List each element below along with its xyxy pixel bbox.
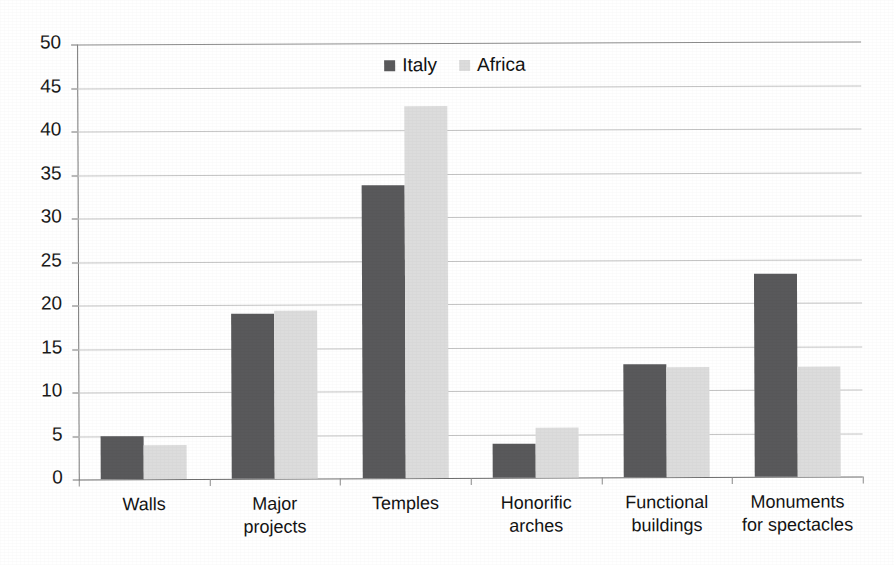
bar-group <box>361 43 449 478</box>
bar-italy[interactable] <box>754 274 798 477</box>
x-category-tick <box>732 477 733 484</box>
gridline-20 <box>78 302 862 306</box>
bar-italy[interactable] <box>361 185 405 478</box>
y-tick-label-30: 30 <box>22 205 62 227</box>
y-tick-label-35: 35 <box>22 162 62 184</box>
gridline-45 <box>77 85 861 89</box>
x-category-label: Monuments for spectacles <box>720 490 875 537</box>
y-tick-label-20: 20 <box>22 292 62 314</box>
x-axis: WallsMajor projectsTemplesHonorific arch… <box>0 0 893 2</box>
bar-chart: 05101520253035404550 WallsMajor projects… <box>0 0 894 565</box>
y-tick-label-50: 50 <box>21 31 61 53</box>
bar-africa[interactable] <box>797 366 840 477</box>
legend-item-africa[interactable]: Africa <box>459 54 526 76</box>
bar-italy[interactable] <box>101 436 144 480</box>
gridline-25 <box>78 259 862 263</box>
y-tick-label-5: 5 <box>23 423 63 445</box>
gridline-10 <box>78 389 862 393</box>
bar-africa[interactable] <box>536 428 579 478</box>
bar-group <box>622 42 710 477</box>
x-category-tick <box>209 479 210 486</box>
bar-group <box>99 44 187 479</box>
gridline-5 <box>79 433 863 437</box>
gridline-15 <box>78 346 862 350</box>
bar-italy[interactable] <box>231 313 275 478</box>
bar-italy[interactable] <box>493 444 536 478</box>
bar-group <box>753 41 841 476</box>
bar-group <box>491 42 579 477</box>
legend-swatch-africa-icon <box>459 59 470 70</box>
bar-africa[interactable] <box>144 445 187 479</box>
chart-skew-wrapper: 05101520253035404550 WallsMajor projects… <box>0 0 894 565</box>
bar-africa[interactable] <box>666 367 709 478</box>
y-tick-label-0: 0 <box>23 466 63 488</box>
x-category-tick <box>471 478 472 485</box>
x-category-tick <box>601 477 602 484</box>
y-tick-label-45: 45 <box>21 75 61 97</box>
x-category-tick <box>79 479 80 486</box>
y-tick-label-40: 40 <box>21 118 61 140</box>
y-tick-label-15: 15 <box>22 336 62 358</box>
y-axis: 05101520253035404550 <box>0 0 893 2</box>
bar-group <box>230 44 318 479</box>
y-tick-label-10: 10 <box>22 379 62 401</box>
bar-italy[interactable] <box>623 364 666 477</box>
legend-label: Italy <box>402 54 437 76</box>
plot-area <box>77 41 863 479</box>
gridline-50 <box>77 41 861 45</box>
legend-swatch-italy-icon <box>384 60 395 71</box>
x-category-tick <box>340 478 341 485</box>
x-category-tick <box>863 476 864 483</box>
gridline-40 <box>77 128 861 132</box>
chart-legend: ItalyAfrica <box>384 54 526 77</box>
gridline-30 <box>78 215 862 219</box>
bar-africa[interactable] <box>404 106 448 479</box>
bar-africa[interactable] <box>274 311 318 479</box>
legend-label: Africa <box>477 54 526 76</box>
legend-item-italy[interactable]: Italy <box>384 54 437 76</box>
gridline-35 <box>78 172 862 176</box>
y-tick-label-25: 25 <box>22 249 62 271</box>
